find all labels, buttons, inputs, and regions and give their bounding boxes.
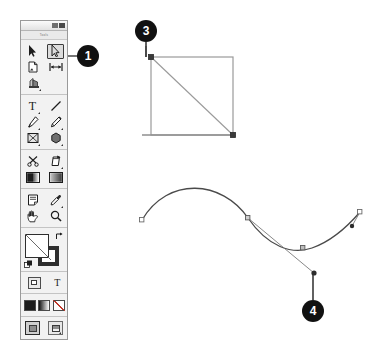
zoom-tool[interactable] [47,209,64,224]
content-collector-tool[interactable] [25,76,42,91]
shape-tool[interactable] [47,131,64,146]
callout-3[interactable]: 3 [135,20,157,42]
flyout-arrow-icon[interactable] [38,144,40,146]
anchor-bottom-right[interactable] [231,133,236,138]
pencil-tool[interactable] [47,115,64,130]
utility-group [21,189,67,228]
gap-tool[interactable] [47,60,64,75]
type-T-icon: T [29,101,36,111]
selection-tool[interactable] [24,44,41,59]
flyout-arrow-icon[interactable] [59,332,61,334]
callout-4-label: 4 [310,304,317,318]
direction-handle-main [248,218,314,273]
anchor-curve-low[interactable] [301,246,305,250]
callout-4[interactable]: 4 [302,300,324,322]
scissors-tool[interactable] [24,154,41,169]
eyedropper-tool[interactable] [47,193,64,208]
normal-mode-icon [29,325,37,332]
flyout-arrow-icon[interactable] [61,206,63,208]
note-tool[interactable] [24,193,41,208]
container-icon [31,280,37,285]
normal-view-mode-button[interactable] [25,321,40,335]
fill-stroke-swatches[interactable] [24,233,64,267]
gradient-swatch-tool[interactable] [24,170,41,185]
formatting-affects-container-button[interactable] [28,277,41,289]
anchor-curve-start[interactable] [140,218,144,222]
flyout-arrow-icon[interactable] [61,167,63,169]
anchor-curve-end[interactable] [358,210,362,214]
default-fill-stroke-icon[interactable] [24,260,33,269]
screenshot-stage: Tools [0,0,378,344]
flyout-arrow-icon[interactable] [38,128,40,130]
direction-handle-right [352,212,360,226]
callout-1-label: 1 [85,49,92,63]
direct-selection-tool[interactable] [47,44,64,59]
formatting-affects-text-button[interactable]: T [54,278,60,288]
apply-color-button[interactable] [24,300,36,311]
flyout-arrow-icon[interactable] [61,144,63,146]
s-curve-path[interactable] [142,188,360,273]
callout-3-label: 3 [143,24,150,38]
free-transform-tool[interactable] [47,154,64,169]
direction-handle-endpoint[interactable] [311,270,316,275]
formatting-affects-group: T [21,272,67,294]
minimize-button[interactable] [52,23,58,28]
drawing-group: T [21,95,67,150]
callout-1[interactable]: 1 [77,45,99,67]
flyout-arrow-icon[interactable] [38,112,40,114]
apply-color-group [21,294,67,317]
tools-panel[interactable]: Tools [20,20,68,340]
view-mode-group [21,317,67,339]
color-controls-group [21,228,67,272]
anchor-curve-mid[interactable] [246,216,250,220]
type-tool[interactable]: T [24,99,41,114]
transform-group [21,150,67,189]
line-tool[interactable] [47,99,64,114]
panel-title-label-bar: Tools [21,31,67,40]
fill-swatch[interactable] [25,234,49,258]
frame-tool[interactable] [24,131,41,146]
flyout-arrow-icon[interactable] [39,89,41,91]
close-button[interactable] [59,23,65,28]
preview-mode-icon [52,325,60,332]
anchor-top-left[interactable] [149,55,154,60]
hand-tool[interactable] [24,209,41,224]
swap-fill-stroke-icon[interactable] [55,232,64,241]
panel-title: Tools [40,33,49,37]
triangle-rectangle-path[interactable] [142,46,233,135]
direction-handle-endpoint-right[interactable] [350,224,354,228]
preview-view-mode-button[interactable] [48,321,63,335]
flyout-arrow-icon[interactable] [61,128,63,130]
gradient-feather-tool[interactable] [47,170,64,185]
selection-group [21,40,67,95]
apply-none-button[interactable] [53,300,65,311]
panel-title-bar[interactable] [21,21,67,31]
pen-tool[interactable] [24,115,41,130]
apply-gradient-button[interactable] [38,300,50,311]
page-tool[interactable] [24,60,41,75]
